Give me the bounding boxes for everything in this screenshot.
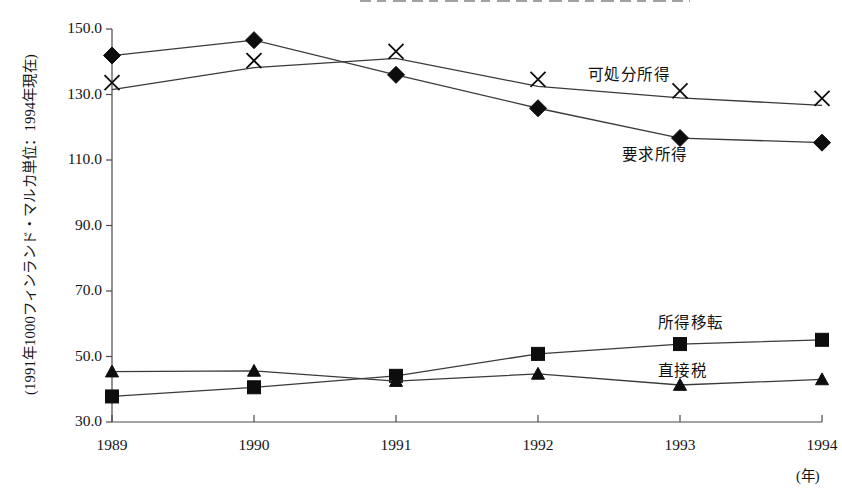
y-tick-label: 150.0 (20, 19, 102, 37)
series-line (112, 40, 822, 143)
x-tick-label: 1992 (493, 436, 583, 454)
marker-square (816, 333, 829, 346)
marker-square (106, 390, 119, 403)
series-line (112, 58, 822, 105)
y-tick-label: 30.0 (20, 412, 102, 430)
marker-diamond (388, 66, 405, 83)
x-tick-label: 1994 (777, 436, 842, 454)
series-4 (106, 364, 829, 390)
series-3 (106, 333, 829, 403)
marker-square (674, 338, 687, 351)
chart-root: (1991年1000フィンランド・マルカ単位：1994年現在) 150.0130… (0, 0, 842, 497)
marker-square (532, 347, 545, 360)
x-tick-label: 1989 (67, 436, 157, 454)
y-tick-label: 50.0 (20, 347, 102, 365)
series-1 (105, 44, 830, 106)
x-axis-unit-label: (年) (796, 464, 820, 485)
y-tick-label: 70.0 (20, 281, 102, 299)
marker-triangle (532, 367, 545, 379)
y-tick-label: 90.0 (20, 216, 102, 234)
marker-diamond (530, 100, 547, 117)
x-tick-label: 1991 (351, 436, 441, 454)
marker-diamond (104, 47, 121, 64)
x-tick-label: 1990 (209, 436, 299, 454)
marker-square (248, 381, 261, 394)
y-tick-label: 110.0 (20, 150, 102, 168)
series-label-2: 要求所得 (622, 142, 688, 164)
marker-diamond (814, 134, 831, 151)
series-2 (104, 32, 831, 152)
series-label-1: 可処分所得 (588, 62, 670, 84)
series-line (112, 340, 822, 397)
x-tick-label: 1993 (635, 436, 725, 454)
marker-diamond (246, 32, 263, 49)
series-label-4: 直接税 (658, 358, 707, 380)
series-label-3: 所得移転 (658, 310, 724, 332)
line-chart-plot (0, 0, 842, 497)
series-line (112, 371, 822, 385)
marker-triangle (816, 373, 829, 385)
y-tick-label: 130.0 (20, 85, 102, 103)
